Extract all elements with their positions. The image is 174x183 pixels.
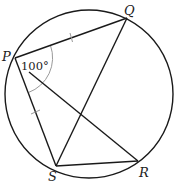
point-label-q: Q — [124, 3, 135, 18]
point-label-p: P — [1, 49, 11, 64]
point-label-s: S — [48, 169, 57, 183]
circle — [5, 10, 173, 178]
segment-sr — [56, 161, 138, 166]
angle-label: 100° — [21, 59, 49, 73]
geometry-diagram: 100° P Q R S — [0, 0, 174, 183]
point-label-r: R — [138, 165, 149, 180]
segment-pr — [29, 72, 138, 161]
